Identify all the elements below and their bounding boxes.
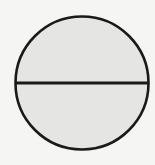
- circle-diagram: [0, 0, 155, 165]
- diagram-canvas: [0, 0, 155, 165]
